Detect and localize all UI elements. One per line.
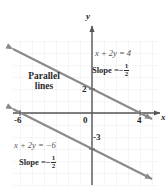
upper-line-slope: Slope =− 1 2 (92, 63, 129, 78)
x-axis-label: x (161, 113, 166, 122)
lower-slope-text: Slope = (19, 157, 46, 167)
y-tick-label-2: 2 (82, 85, 87, 94)
lower-slope-fraction: 1 2 (51, 155, 57, 170)
x-tick-label-4: 4 (137, 116, 142, 125)
y-axis-label: y (86, 12, 90, 21)
lower-line-slope: Slope =− 1 2 (19, 155, 56, 170)
x-tick-label-minus-6: -6 (14, 116, 22, 125)
parallel-lines-graph-figure: y x -6 4 2 -3 0 Parallel lines x + 2y = … (0, 0, 168, 191)
parallel-lines-note-line2: lines (16, 82, 72, 92)
upper-slope-denominator: 2 (124, 70, 130, 78)
lower-slope-numerator: 1 (51, 155, 57, 162)
origin-label: 0 (83, 116, 88, 125)
upper-slope-text: Slope = (92, 65, 119, 75)
lower-slope-denominator: 2 (51, 162, 57, 170)
upper-line-equation: x + 2y = 4 (95, 49, 131, 58)
lower-line-equation: x + 2y = −6 (14, 141, 56, 150)
parallel-lines-note: Parallel lines (16, 72, 72, 91)
upper-slope-fraction: 1 2 (124, 63, 130, 78)
y-tick-label-minus-3: -3 (93, 133, 101, 142)
upper-slope-numerator: 1 (124, 63, 130, 70)
